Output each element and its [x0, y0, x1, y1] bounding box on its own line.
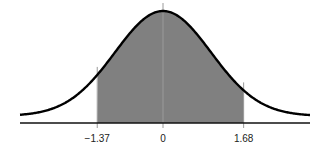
tick-label-right: 1.68 — [234, 133, 254, 144]
tick-label-mean: 0 — [160, 133, 166, 144]
normal-distribution-chart: −1.37 0 1.68 — [0, 0, 321, 152]
tick-label-left: −1.37 — [85, 133, 111, 144]
